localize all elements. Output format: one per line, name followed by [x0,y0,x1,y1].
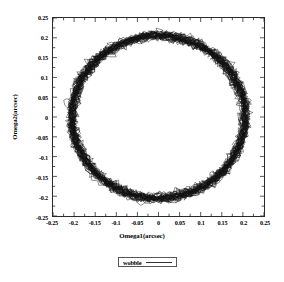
chart-figure: 0.250.20.150.10.050-0.05-0.1-0.15-0.2-0.… [0,0,284,282]
x-tick-label: -0.1 [111,219,120,226]
legend-label: wobble [123,259,141,266]
y-axis-title: Omega2(arcsec) [11,94,18,139]
legend-line-sample [146,262,172,263]
x-tick-label: -0.15 [89,219,101,226]
x-axis-title: Omega1(arcsec) [0,232,284,239]
x-tick-label: -0.2 [69,219,78,226]
x-tick-label: -0.25 [46,219,58,226]
x-tick-label: 0 [157,219,160,226]
x-tick-label: 0.2 [240,219,247,226]
legend-box: wobble [118,257,177,267]
x-tick-label: 0.15 [217,219,227,226]
x-tick-label: 0.05 [175,219,185,226]
x-axis-tick-labels: -0.25-0.2-0.15-0.1-0.0500.050.10.150.20.… [0,0,284,282]
x-tick-label: 0.25 [260,219,270,226]
x-tick-label: 0.1 [198,219,205,226]
x-tick-label: -0.05 [131,219,143,226]
